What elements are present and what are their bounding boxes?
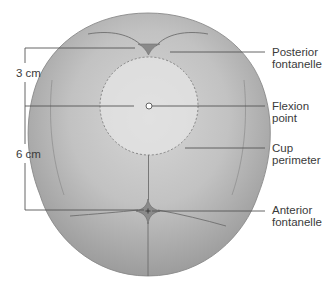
posterior-fontanelle-label: Posterior fontanelle [272,46,322,70]
anterior-fontanelle-label: Anterior fontanelle [272,204,322,228]
measurement-3cm-label: 3 cm [16,67,41,79]
flexion-point-marker [146,103,152,109]
measurement-6cm-label: 6 cm [16,148,41,160]
flexion-point-label: Flexion point [272,100,309,124]
cup-perimeter-label: Cup perimeter [272,142,321,166]
